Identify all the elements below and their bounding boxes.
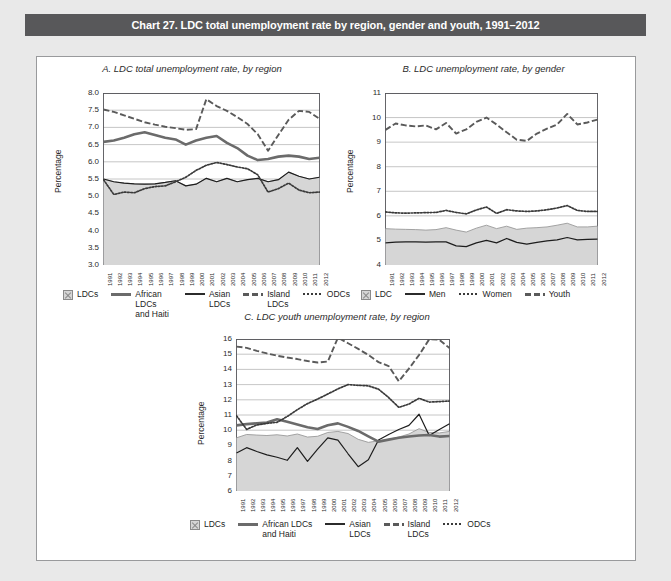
legend-swatch-area-icon <box>190 520 200 530</box>
legend-label: ODCs <box>467 519 490 529</box>
legend-item[interactable]: AsianLDCs <box>185 289 230 309</box>
legend-swatch-thin-icon <box>405 293 425 295</box>
panel-a-title: A. LDC total unemployment rate, by regio… <box>51 63 333 74</box>
legend-label: AsianLDCs <box>209 289 230 309</box>
x-tick-label: 2000 <box>199 273 205 286</box>
x-tick-label: 1991 <box>240 499 246 512</box>
y-tick-label: 10 <box>202 425 232 434</box>
x-tick-label: 2011 <box>312 273 318 286</box>
x-tick-label: 1992 <box>117 273 123 286</box>
x-tick-label: 1992 <box>399 273 405 286</box>
x-tick-label: 1993 <box>409 273 415 286</box>
x-tick-label: 2002 <box>351 499 357 512</box>
legend-item[interactable]: ODCs <box>443 519 490 529</box>
x-tick-label: 2000 <box>331 499 337 512</box>
panel-b-legend: LDCMenWomenYouth <box>361 289 631 300</box>
x-tick-label: 2008 <box>412 499 418 512</box>
x-tick-label: 2003 <box>230 273 236 286</box>
x-tick-label: 2003 <box>361 499 367 512</box>
legend-label: IslandLDCs <box>267 289 290 309</box>
y-tick-label: 9 <box>202 440 232 449</box>
x-tick-label: 2002 <box>500 273 506 286</box>
x-tick-label: 1992 <box>250 499 256 512</box>
x-tick-label: 2008 <box>560 273 566 286</box>
panel-a: A. LDC total unemployment rate, by regio… <box>51 63 333 308</box>
legend-label: LDCs <box>204 519 225 529</box>
y-tick-label: 7 <box>351 186 381 195</box>
x-tick-label: 2012 <box>323 273 329 286</box>
legend-label: LDC <box>375 289 392 299</box>
legend-item[interactable]: AsianLDCs <box>325 519 370 539</box>
legend-item[interactable]: Men <box>405 289 446 299</box>
y-tick-label: 14 <box>202 364 232 373</box>
legend-item[interactable]: Youth <box>525 289 570 299</box>
x-tick-label: 2010 <box>302 273 308 286</box>
y-tick-label: 9 <box>351 137 381 146</box>
x-tick-label: 1997 <box>300 499 306 512</box>
y-tick-label: 4.0 <box>69 226 99 235</box>
x-tick-label: 1998 <box>179 273 185 286</box>
x-tick-label: 2010 <box>580 273 586 286</box>
legend-label: LDCs <box>77 289 98 299</box>
legend-item[interactable]: African LDCsand Haiti <box>238 519 312 539</box>
legend-swatch-dot-icon <box>303 293 323 295</box>
y-tick-label: 6.0 <box>69 157 99 166</box>
y-tick-label: 7.0 <box>69 122 99 131</box>
panel-c-title: C. LDC youth unemployment rate, by regio… <box>192 311 482 322</box>
legend-item[interactable]: LDCs <box>190 519 225 530</box>
legend-item[interactable]: Women <box>459 289 512 299</box>
x-tick-label: 2006 <box>392 499 398 512</box>
legend-item[interactable]: IslandLDCs <box>384 519 431 539</box>
legend-swatch-dash-icon <box>384 523 404 526</box>
y-tick-label: 5.0 <box>69 191 99 200</box>
panel-b-title: B. LDC unemployment rate, by gender <box>341 63 626 74</box>
x-tick-label: 1994 <box>137 273 143 286</box>
x-tick-label: 2000 <box>479 273 485 286</box>
legend-item[interactable]: LDCs <box>63 289 98 300</box>
x-tick-label: 2011 <box>590 273 596 286</box>
legend-label: Youth <box>549 289 570 299</box>
x-tick-label: 1996 <box>439 273 445 286</box>
x-tick-label: 2010 <box>432 499 438 512</box>
chart-title-bar: Chart 27. LDC total unemployment rate by… <box>25 14 646 36</box>
legend-swatch-dot-icon <box>459 293 479 295</box>
x-tick-label: 1996 <box>290 499 296 512</box>
y-tick-label: 6 <box>351 211 381 220</box>
x-tick-label: 2005 <box>382 499 388 512</box>
y-tick-label: 7.5 <box>69 105 99 114</box>
y-tick-label: 3.0 <box>69 260 99 269</box>
y-tick-label: 12 <box>202 395 232 404</box>
chart-frame: A. LDC total unemployment rate, by regio… <box>36 56 636 561</box>
y-tick-label: 6.5 <box>69 140 99 149</box>
y-tick-label: 4 <box>351 260 381 269</box>
panel-a-plot <box>103 93 320 265</box>
x-tick-label: 1999 <box>321 499 327 512</box>
y-tick-label: 10 <box>351 113 381 122</box>
x-tick-label: 1995 <box>429 273 435 286</box>
legend-label: African LDCsand Haiti <box>135 289 172 319</box>
panel-c-ylabel: Percentage <box>196 402 206 445</box>
x-tick-label: 2004 <box>240 273 246 286</box>
legend-item[interactable]: African LDCsand Haiti <box>111 289 172 319</box>
legend-label: Men <box>429 289 446 299</box>
x-tick-label: 2007 <box>550 273 556 286</box>
legend-swatch-area-icon <box>63 290 73 300</box>
y-tick-label: 7 <box>202 471 232 480</box>
x-tick-label: 2009 <box>570 273 576 286</box>
x-tick-label: 2006 <box>540 273 546 286</box>
x-tick-label: 1994 <box>419 273 425 286</box>
panel-c-plot <box>236 339 450 491</box>
y-tick-label: 16 <box>202 334 232 343</box>
legend-swatch-thick-icon <box>238 523 258 526</box>
legend-item[interactable]: LDC <box>361 289 392 300</box>
legend-item[interactable]: IslandLDCs <box>243 289 290 309</box>
x-tick-label: 1991 <box>107 273 113 286</box>
x-tick-label: 1991 <box>389 273 395 286</box>
x-tick-label: 1993 <box>127 273 133 286</box>
legend-swatch-thick-icon <box>111 293 131 296</box>
x-tick-label: 2005 <box>530 273 536 286</box>
legend-swatch-thin-icon <box>325 523 345 525</box>
x-tick-label: 1995 <box>280 499 286 512</box>
y-tick-label: 5 <box>351 235 381 244</box>
legend-swatch-thin-icon <box>185 293 205 295</box>
